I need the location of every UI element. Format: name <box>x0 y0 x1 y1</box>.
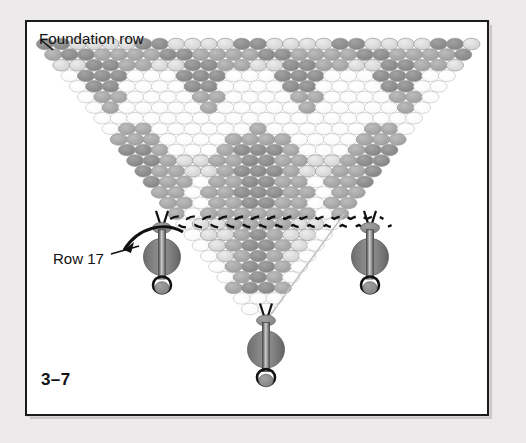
bead <box>118 59 135 71</box>
bead <box>225 134 242 146</box>
bead <box>241 176 258 188</box>
bead <box>332 123 349 135</box>
bead <box>127 134 144 146</box>
bead <box>192 176 209 188</box>
bead <box>373 49 390 61</box>
bead <box>291 155 308 167</box>
bead <box>266 81 283 93</box>
bead <box>266 229 283 241</box>
bead <box>323 197 340 209</box>
bead <box>250 123 267 135</box>
bead <box>217 165 234 177</box>
foundation-row-label: Foundation row <box>39 30 144 47</box>
bead <box>143 134 160 146</box>
bead <box>299 59 316 71</box>
bead <box>69 81 86 93</box>
bead <box>266 165 283 177</box>
bead <box>414 38 431 50</box>
bead <box>405 91 422 103</box>
bead <box>356 70 373 82</box>
bead <box>332 59 349 71</box>
bead <box>282 38 299 50</box>
right-pendant <box>352 211 389 294</box>
bead <box>250 250 267 262</box>
bead <box>159 70 176 82</box>
bead <box>168 123 185 135</box>
bead <box>364 165 381 177</box>
bead <box>340 134 357 146</box>
bead <box>192 112 209 124</box>
bead <box>200 165 217 177</box>
bead <box>127 112 144 124</box>
bead <box>168 38 185 50</box>
bead <box>332 38 349 50</box>
bead <box>389 49 406 61</box>
bead <box>282 229 299 241</box>
bead <box>348 38 365 50</box>
bead <box>127 155 144 167</box>
bead <box>159 197 176 209</box>
bead <box>332 187 349 199</box>
bead <box>217 59 234 71</box>
bead <box>266 102 283 114</box>
bead <box>176 112 193 124</box>
bead <box>151 187 168 199</box>
bead <box>241 303 258 315</box>
bead <box>102 123 119 135</box>
bead <box>233 102 250 114</box>
bead <box>159 49 176 61</box>
bead <box>77 49 94 61</box>
bead <box>184 229 201 241</box>
bead <box>192 197 209 209</box>
bead <box>364 144 381 156</box>
bead <box>143 155 160 167</box>
bead <box>389 134 406 146</box>
bead <box>258 112 275 124</box>
bead <box>332 165 349 177</box>
bead <box>217 187 234 199</box>
bead <box>348 165 365 177</box>
bead <box>307 112 324 124</box>
bead <box>397 38 414 50</box>
bead <box>209 91 226 103</box>
bead <box>340 197 357 209</box>
bead <box>102 81 119 93</box>
bead <box>176 49 193 61</box>
bead <box>397 81 414 93</box>
bead <box>151 144 168 156</box>
bead <box>184 144 201 156</box>
bead <box>348 81 365 93</box>
bead <box>225 240 242 252</box>
bead <box>225 70 242 82</box>
bead <box>348 102 365 114</box>
bead <box>135 123 152 135</box>
bead <box>118 123 135 135</box>
bead <box>282 250 299 262</box>
bead <box>200 102 217 114</box>
bead <box>200 144 217 156</box>
bead <box>118 102 135 114</box>
bead <box>405 112 422 124</box>
bead <box>315 102 332 114</box>
bead <box>225 49 242 61</box>
bead <box>233 271 250 283</box>
bead <box>143 49 160 61</box>
bead <box>241 91 258 103</box>
bead <box>291 112 308 124</box>
bead <box>397 123 414 135</box>
bead <box>200 187 217 199</box>
bead <box>373 112 390 124</box>
bead <box>356 91 373 103</box>
bead <box>77 70 94 82</box>
bead <box>209 70 226 82</box>
bead <box>225 91 242 103</box>
bead-grid <box>36 38 480 315</box>
bead <box>151 165 168 177</box>
bead <box>233 229 250 241</box>
bead <box>282 187 299 199</box>
bead <box>233 38 250 50</box>
bead <box>118 144 135 156</box>
bead <box>381 123 398 135</box>
bead <box>291 176 308 188</box>
bead <box>348 144 365 156</box>
